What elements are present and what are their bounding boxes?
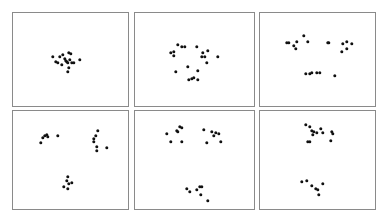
panel-2-frame xyxy=(134,12,255,107)
panel-3-frame xyxy=(259,12,376,107)
scatter-panel-grid xyxy=(0,0,387,218)
panel-4-frame xyxy=(12,110,129,210)
panel-5-frame xyxy=(134,110,255,210)
